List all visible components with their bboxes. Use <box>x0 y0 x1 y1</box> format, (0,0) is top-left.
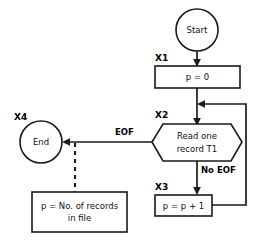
node-annotation-label-line1: p = No. of records <box>41 201 119 211</box>
node-end-label: End <box>33 137 49 147</box>
node-read-label-line2: record T1 <box>177 144 217 154</box>
node-read-label-line1: Read one <box>177 131 217 141</box>
node-start-label: Start <box>187 25 208 35</box>
flowchart-svg: Start p = 0 X1 Read one record T1 X2 p =… <box>0 0 267 246</box>
arrowhead-x2-to-x3 <box>193 187 201 195</box>
arrowhead-loop-merge <box>197 100 205 108</box>
edge-label-eof: EOF <box>115 127 134 137</box>
step-label-x3: X3 <box>155 182 168 192</box>
node-increment-label: p = p + 1 <box>163 201 204 211</box>
node-annotation-label-line2: in file <box>68 213 91 223</box>
step-label-x2: X2 <box>155 110 168 120</box>
edge-label-no-eof: No EOF <box>201 165 236 175</box>
step-label-x4: X4 <box>14 112 27 122</box>
arrowhead-x2-to-end <box>62 138 70 146</box>
flowchart-canvas: Start p = 0 X1 Read one record T1 X2 p =… <box>0 0 267 246</box>
step-label-x1: X1 <box>155 53 168 63</box>
node-init-label: p = 0 <box>186 72 209 82</box>
